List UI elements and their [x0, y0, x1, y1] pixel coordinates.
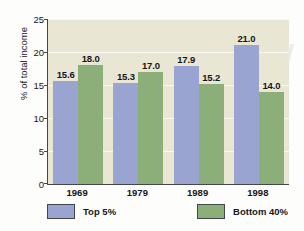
legend-label-top5: Top 5% [83, 206, 116, 217]
x-tick-label-1979: 1979 [112, 187, 162, 198]
bar-group-1969: 15.6 18.0 [53, 19, 103, 184]
bar-group-1998: 21.0 14.0 [234, 19, 284, 184]
bar-value-label: 14.0 [263, 80, 281, 91]
y-tick-label: 5 [24, 147, 44, 157]
y-tick-label: 10 [24, 114, 44, 124]
bar-bottom40-1989[interactable]: 15.2 [199, 84, 224, 184]
x-tick-label-1989: 1989 [173, 187, 223, 198]
bar-top5-1998[interactable]: 21.0 [234, 45, 259, 184]
bar-value-label: 17.0 [142, 60, 160, 71]
y-tick-label: 15 [24, 81, 44, 91]
legend-label-bottom40: Bottom 40% [233, 206, 288, 217]
plot-area: 15.6 18.0 15.3 17.0 17.9 15.2 [47, 19, 289, 185]
bar-group-1989: 17.9 15.2 [174, 19, 224, 184]
bar-top5-1969[interactable]: 15.6 [53, 81, 78, 184]
y-tick-label: 20 [24, 48, 44, 58]
bar-top5-1979[interactable]: 15.3 [113, 83, 138, 184]
bar-value-label: 21.0 [238, 33, 256, 44]
legend-item-top5[interactable]: Top 5% [47, 204, 116, 219]
bar-value-label: 18.0 [82, 53, 100, 64]
legend-swatch-bottom40 [197, 204, 225, 219]
chart-figure: What did it do? % of total income 25 20 … [0, 0, 304, 231]
x-tick-label-1969: 1969 [52, 187, 102, 198]
bar-groups: 15.6 18.0 15.3 17.0 17.9 15.2 [48, 19, 289, 184]
bar-value-label: 15.3 [117, 71, 135, 82]
bar-bottom40-1998[interactable]: 14.0 [259, 92, 284, 184]
bar-value-label: 15.2 [202, 72, 220, 83]
legend-swatch-top5 [47, 204, 75, 219]
bar-value-label: 17.9 [177, 54, 195, 65]
x-tick-label-1998: 1998 [233, 187, 283, 198]
bar-bottom40-1979[interactable]: 17.0 [138, 72, 163, 184]
x-axis-labels: 1969 1979 1989 1998 [47, 187, 288, 198]
y-tick-label: 25 [24, 15, 44, 25]
chart-legend: Top 5% Bottom 40% [47, 204, 288, 219]
bar-top5-1989[interactable]: 17.9 [174, 66, 199, 184]
legend-item-bottom40[interactable]: Bottom 40% [197, 204, 288, 219]
bar-group-1979: 15.3 17.0 [113, 19, 163, 184]
bar-value-label: 15.6 [57, 69, 75, 80]
y-tick-label: 0 [24, 180, 44, 190]
y-axis-ticks: 25 20 15 10 5 0 [22, 0, 44, 231]
bar-bottom40-1969[interactable]: 18.0 [78, 65, 103, 184]
